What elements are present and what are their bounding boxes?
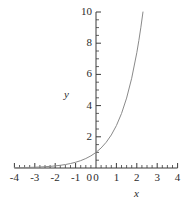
tick-marks-group [14,12,177,168]
y-axis-tick-label: 6 [70,68,92,79]
y-axis-tick-label: 0 [74,172,92,183]
y-axis-tick-label: 8 [70,37,92,48]
y-axis-tick-label: 2 [70,131,92,142]
x-axis-tick-label: 3 [147,172,167,183]
x-axis-tick-label: -3 [25,172,45,183]
y-axis-title: y [64,89,69,100]
x-axis-title: x [134,188,139,199]
y-axis-tick-label: 4 [70,100,92,111]
x-axis-tick-label: 4 [168,172,188,183]
y-axis-tick-label: 10 [70,6,92,17]
x-axis-tick-label: -4 [4,172,24,183]
exponential-function-plot: -4-3-2-1012340246810 y x [0,0,192,203]
x-axis-tick-label: 2 [127,172,147,183]
x-axis-tick-label: 1 [106,172,126,183]
data-curve-group [14,12,143,168]
x-axis-tick-label: -2 [45,172,65,183]
data-curve [14,12,143,168]
